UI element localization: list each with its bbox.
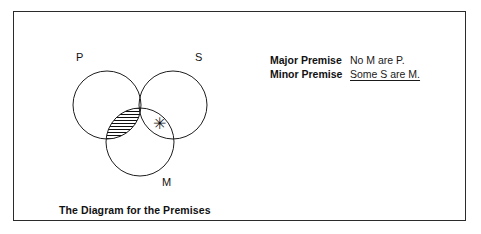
major-premise-text: No M are P. [350,54,405,66]
circle-label-s: S [195,51,202,63]
circle-p [73,71,141,139]
premises-block: Major Premise No M are P. Minor Premise … [270,54,450,82]
circle-s [139,71,207,139]
asterisk-marker: ✳ [153,115,166,132]
circle-label-p: P [76,51,83,63]
figure-caption: The Diagram for the Premises [59,204,211,216]
minor-premise-label: Minor Premise [270,68,350,80]
premise-row-major: Major Premise No M are P. [270,54,450,67]
minor-premise-text: Some S are M. [350,68,420,80]
venn-diagram: P S M ✳ [62,44,227,196]
circle-label-m: M [162,176,171,188]
venn-diagram-svg: P S M ✳ [62,44,227,196]
premise-row-minor: Minor Premise Some S are M. [270,68,450,81]
figure-root: P S M ✳ The Diagram for the Premises Maj… [0,0,481,234]
figure-border: P S M ✳ The Diagram for the Premises Maj… [13,11,466,221]
major-premise-label: Major Premise [270,54,350,66]
